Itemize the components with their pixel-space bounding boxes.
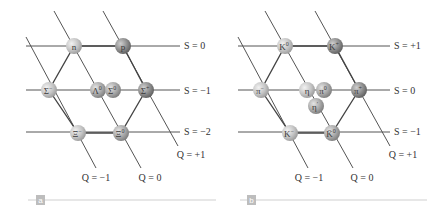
particle-superscript: 0 bbox=[324, 85, 327, 91]
particle-superscript: 0 bbox=[99, 85, 102, 91]
particle-superscript: 0 bbox=[333, 128, 336, 134]
strangeness-label: S = −1 bbox=[184, 85, 211, 96]
charge-label: Q = +1 bbox=[177, 149, 206, 160]
particle-Xi-minus: Ξ− bbox=[70, 125, 86, 141]
charge-label: Q = 0 bbox=[139, 172, 162, 183]
particle-label: n bbox=[72, 42, 77, 52]
particle-pi-0: π0 bbox=[316, 82, 332, 98]
particle-superscript: 0 bbox=[286, 41, 289, 47]
particle-label: p bbox=[121, 42, 126, 52]
charge-label: Q = 0 bbox=[351, 172, 374, 183]
particle-p: p bbox=[115, 38, 131, 54]
particle-Sigma-minus: Σ− bbox=[41, 82, 57, 98]
charge-label: Q = −1 bbox=[295, 172, 324, 183]
particle-Xi-0: Ξ0 bbox=[113, 125, 129, 141]
strangeness-label: S = −2 bbox=[184, 126, 211, 137]
charge-label: Q = +1 bbox=[389, 149, 418, 160]
strangeness-label: S = 0 bbox=[184, 40, 205, 51]
eightfold-way-diagrams: npΣ−Λ0Σ0Σ+Ξ−Ξ0 S = 0 S = −1 S = −2 Q = −… bbox=[0, 0, 448, 214]
strangeness-label: S = −1 bbox=[394, 126, 421, 137]
charge-line-q-1 bbox=[238, 37, 308, 168]
particle-label: η bbox=[305, 86, 310, 96]
particle-eta-prime: η′ bbox=[308, 98, 324, 114]
particle-superscript: 0 bbox=[113, 85, 116, 91]
charge-label: Q = −1 bbox=[82, 172, 111, 183]
particle-Lambda-0: Λ0 bbox=[90, 82, 106, 98]
panel-a-tag: a bbox=[38, 196, 43, 205]
particle-Sigma-plus: Σ+ bbox=[138, 82, 154, 98]
particle-pi-minus: π− bbox=[253, 82, 269, 98]
particle-n: n bbox=[66, 38, 82, 54]
particle-Sigma-0: Σ0 bbox=[105, 82, 121, 98]
particle-eta: η bbox=[299, 82, 315, 98]
panel-b-tag: b bbox=[249, 196, 254, 205]
strangeness-label: S = 0 bbox=[394, 85, 415, 96]
particle-K-plus: K+ bbox=[327, 38, 343, 54]
particle-K-minus: K− bbox=[282, 125, 298, 141]
particle-superscript: 0 bbox=[121, 128, 124, 134]
particle-pi-plus: π+ bbox=[351, 82, 367, 98]
panel-b-meson-nonet: K0K+π−ηπ0η′π+K−K̄0 S = +1 S = 0 S = −1 Q… bbox=[238, 11, 427, 205]
charge-line-q-1 bbox=[26, 37, 96, 168]
panel-a-baryon-octet: npΣ−Λ0Σ0Σ+Ξ−Ξ0 S = 0 S = −1 S = −2 Q = −… bbox=[26, 11, 216, 205]
strangeness-label: S = +1 bbox=[394, 40, 421, 51]
particle-K-0: K0 bbox=[277, 38, 293, 54]
particle-K-bar-0: K̄0 bbox=[324, 125, 340, 141]
